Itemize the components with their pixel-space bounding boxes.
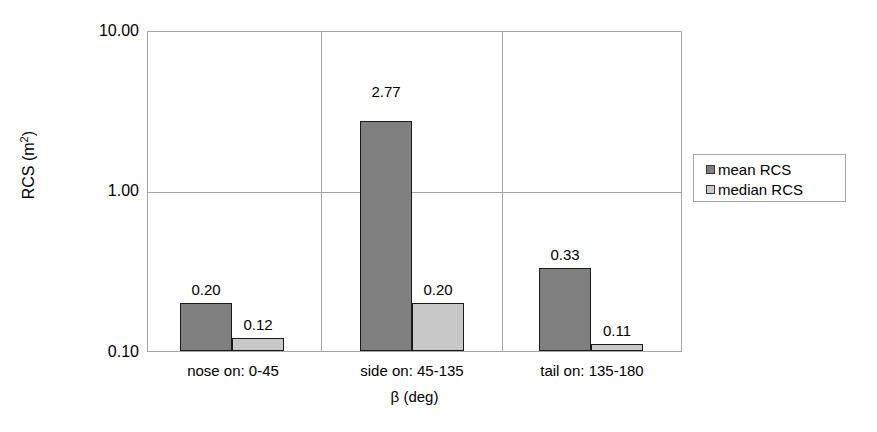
bar-median-nose-on [232,338,284,351]
x-axis-title: β (deg) [147,388,682,405]
y-axis-title-superscript: 2 [18,136,30,142]
legend-swatch-mean-icon [706,165,715,174]
bar-value-mean-side-on: 2.77 [334,83,438,100]
gridline-1 [148,192,681,193]
bar-value-median-nose-on: 0.12 [206,316,310,333]
bar-mean-side-on [360,121,412,351]
legend-label-median: median RCS [718,181,803,198]
y-axis-title: RCS (m2) [18,95,38,235]
y-tick-0-1: 0.10 [108,343,139,361]
category-separator-1 [321,32,322,351]
bar-value-mean-tail-on: 0.33 [513,246,617,263]
y-axis-title-base: RCS (m [20,142,37,199]
legend-item-mean: mean RCS [706,160,845,179]
legend-label-mean: mean RCS [718,161,791,178]
y-axis-title-tail: ) [20,131,37,136]
x-tick-nose-on: nose on: 0-45 [145,362,321,379]
legend: mean RCS median RCS [693,154,846,202]
legend-swatch-median-icon [706,185,715,194]
category-separator-2 [502,32,503,351]
legend-item-median: median RCS [706,180,845,199]
bar-value-median-side-on: 0.20 [386,281,490,298]
x-tick-tail-on: tail on: 135-180 [502,362,682,379]
plot-area [147,31,682,352]
chart-screenshot: 10.00 1.00 0.10 RCS (m2) 0.20 0.12 2.77 … [0,0,877,432]
y-axis-tick-labels: 10.00 1.00 0.10 [60,0,139,432]
bar-value-mean-nose-on: 0.20 [154,281,258,298]
bar-median-tail-on [591,344,643,351]
x-tick-side-on: side on: 45-135 [322,362,502,379]
y-tick-1: 1.00 [108,182,139,200]
bar-value-median-tail-on: 0.11 [565,322,669,339]
bar-median-side-on [412,303,464,351]
y-tick-10: 10.00 [99,22,139,40]
